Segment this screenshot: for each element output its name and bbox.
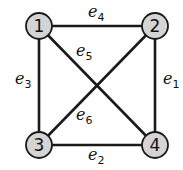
node-2: 2 — [142, 13, 168, 39]
graph-diagram: 1 2 3 4 e4 e1 e3 e2 e5 e6 — [0, 0, 183, 170]
node-3: 3 — [26, 132, 52, 158]
graph-svg: 1 2 3 4 e4 e1 e3 e2 e5 e6 — [0, 0, 183, 170]
edge-label-e2: e2 — [88, 145, 104, 167]
edge-label-e4: e4 — [88, 2, 104, 24]
edge-label-e3: e3 — [15, 69, 31, 91]
edge-label-e1: e1 — [163, 69, 179, 91]
node-4-label: 4 — [150, 135, 161, 155]
edge-label-e6: e6 — [76, 105, 92, 127]
node-3-label: 3 — [34, 135, 45, 155]
node-2-label: 2 — [150, 16, 161, 36]
node-1: 1 — [26, 13, 52, 39]
edge-label-e5: e5 — [76, 41, 92, 63]
node-1-label: 1 — [34, 16, 45, 36]
node-4: 4 — [142, 132, 168, 158]
